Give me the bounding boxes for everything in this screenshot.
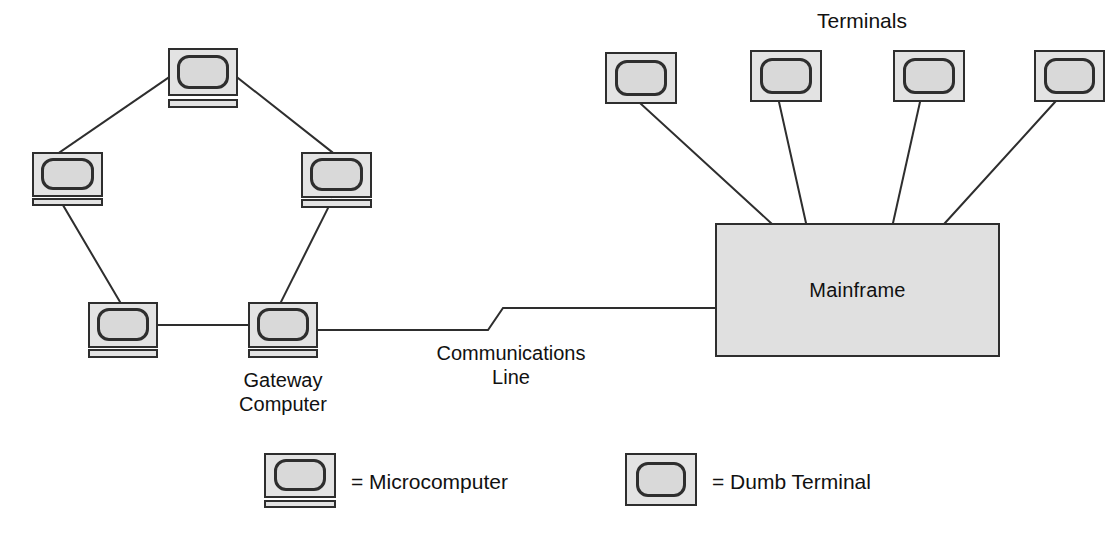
terminals-title: Terminals bbox=[762, 8, 962, 34]
link-terminal2-mainframe bbox=[779, 102, 806, 223]
legend-microcomputer-icon bbox=[264, 453, 336, 508]
screen bbox=[615, 60, 667, 96]
link-left-to-bottomleft bbox=[60, 200, 120, 302]
computer-base bbox=[168, 99, 238, 108]
screen bbox=[177, 55, 229, 89]
network-topology-diagram: Mainframe Terminals Gateway Computer Com… bbox=[0, 0, 1113, 539]
computer-base bbox=[32, 198, 103, 206]
screen bbox=[41, 158, 94, 190]
terminal-3[interactable] bbox=[893, 50, 965, 102]
computer-base bbox=[248, 349, 318, 358]
mainframe-label: Mainframe bbox=[809, 279, 905, 302]
screen bbox=[760, 58, 812, 94]
screen bbox=[636, 462, 686, 497]
mainframe[interactable]: Mainframe bbox=[715, 223, 1000, 357]
computer-base bbox=[301, 199, 372, 208]
link-right-to-gateway bbox=[281, 200, 332, 302]
computer-base bbox=[264, 500, 336, 508]
micro-bottom-left[interactable] bbox=[88, 302, 158, 358]
screen bbox=[97, 308, 149, 341]
link-left-to-top bbox=[60, 78, 168, 152]
terminal-2[interactable] bbox=[750, 50, 822, 102]
terminal-4[interactable] bbox=[1034, 50, 1105, 102]
link-terminal1-mainframe bbox=[641, 104, 771, 223]
micro-top[interactable] bbox=[168, 48, 238, 108]
communications-line bbox=[318, 308, 715, 330]
computer-base bbox=[88, 349, 158, 358]
link-top-to-right bbox=[238, 78, 332, 152]
micro-right[interactable] bbox=[301, 152, 372, 208]
link-terminal4-mainframe bbox=[945, 102, 1055, 223]
legend-dumb-terminal-icon bbox=[625, 453, 697, 506]
screen bbox=[903, 58, 955, 94]
micro-left[interactable] bbox=[32, 152, 103, 206]
link-terminal3-mainframe bbox=[893, 102, 920, 223]
gateway-computer-label: Gateway Computer bbox=[193, 368, 373, 417]
legend-microcomputer-label: = Microcomputer bbox=[351, 470, 508, 494]
screen bbox=[310, 158, 363, 191]
legend-dumb-terminal-label: = Dumb Terminal bbox=[712, 470, 871, 494]
screen bbox=[274, 459, 326, 491]
screen bbox=[1044, 58, 1095, 94]
communications-line-label: Communications Line bbox=[416, 341, 606, 390]
terminal-1[interactable] bbox=[605, 52, 677, 104]
gateway-computer[interactable] bbox=[248, 302, 318, 358]
screen bbox=[257, 308, 309, 341]
